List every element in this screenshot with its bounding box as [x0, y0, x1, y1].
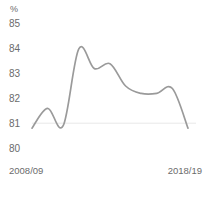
- x-axis-label-start: 2008/09: [9, 165, 43, 176]
- series-line-percentage: [32, 47, 188, 129]
- line-chart: % 85 84 83 82 81 80 2008/09 2018/19: [0, 0, 210, 198]
- x-axis-label-end: 2018/19: [168, 165, 202, 176]
